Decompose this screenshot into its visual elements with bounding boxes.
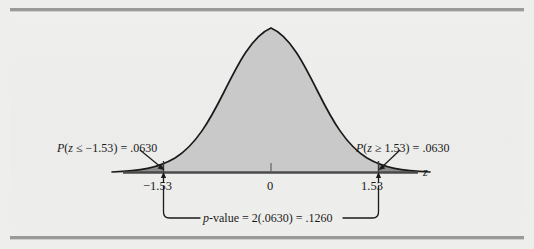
pvalue-label: p-value = 2(.0630) = .1260 bbox=[203, 212, 333, 224]
right-tail-relation: ≥ 1.53 bbox=[372, 141, 406, 155]
axis-label-z: z bbox=[423, 166, 428, 178]
right-tail-probability-label: P(z ≥ 1.53) = .0630 bbox=[356, 142, 449, 154]
pvalue-expression: -value = 2(.0630) = .1260 bbox=[209, 211, 333, 225]
tick-label-zero: 0 bbox=[267, 180, 273, 193]
normal-distribution-figure: −1.53 0 1.53 z P(z ≤ −1.53) = .0630 P(z … bbox=[0, 0, 534, 249]
left-tail-probability-label: P(z ≤ −1.53) = .0630 bbox=[57, 142, 157, 154]
right-tail-value: = .0630 bbox=[410, 141, 450, 155]
tick-label-negative-1-53: −1.53 bbox=[143, 180, 172, 193]
tick-label-1-53: 1.53 bbox=[361, 180, 383, 193]
left-tail-value: = .0630 bbox=[117, 141, 157, 155]
left-tail-relation: ≤ −1.53 bbox=[73, 141, 113, 155]
